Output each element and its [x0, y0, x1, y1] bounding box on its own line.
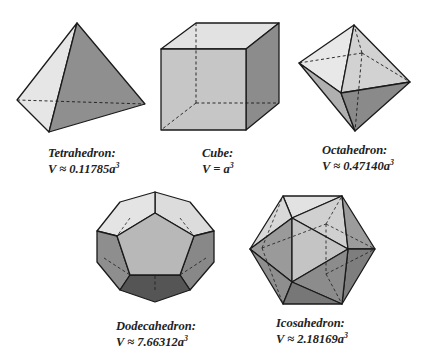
octahedron-shape	[299, 25, 410, 131]
solid-name: Octahedron:	[322, 142, 394, 158]
dodecahedron-label: Dodecahedron: V ≈ 7.66312a3	[116, 318, 196, 350]
dodecahedron-shape	[97, 192, 214, 302]
solid-name: Dodecahedron:	[116, 318, 196, 334]
icosahedron-label: Icosahedron: V ≈ 2.18169a3	[276, 315, 348, 347]
solid-name: Tetrahedron:	[48, 145, 119, 161]
volume-formula: V ≈ 0.47140a3	[322, 158, 394, 174]
volume-formula: V = a3	[202, 161, 234, 177]
cube-shape	[161, 23, 279, 130]
solid-name: Icosahedron:	[276, 315, 348, 331]
solid-name: Cube:	[202, 145, 234, 161]
cube-label: Cube: V = a3	[202, 145, 234, 177]
icosahedron-shape	[250, 196, 375, 304]
polyhedra-figure	[0, 0, 432, 358]
tetrahedron-shape	[17, 23, 145, 132]
tetrahedron-label: Tetrahedron: V ≈ 0.11785a3	[48, 145, 119, 177]
volume-formula: V ≈ 0.11785a3	[48, 161, 119, 177]
volume-formula: V ≈ 7.66312a3	[116, 334, 196, 350]
octahedron-label: Octahedron: V ≈ 0.47140a3	[322, 142, 394, 174]
volume-formula: V ≈ 2.18169a3	[276, 331, 348, 347]
